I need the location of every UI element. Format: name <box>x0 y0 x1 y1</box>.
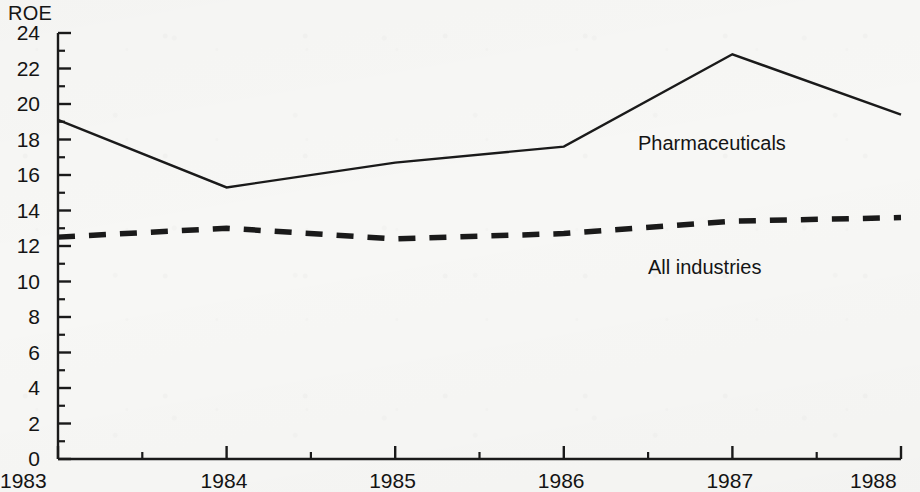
plot-area <box>0 0 920 492</box>
series-line-1 <box>58 218 901 239</box>
axis-lines <box>58 33 901 459</box>
x-tick-label: 1988 <box>850 470 897 491</box>
y-axis-major-ticks <box>58 33 71 459</box>
series-label-all-industries: All industries <box>648 257 761 277</box>
series-line-0 <box>58 54 901 187</box>
x-tick-label: 1983 <box>0 470 47 491</box>
x-tick-label: 1987 <box>706 470 753 491</box>
series-label-pharmaceuticals: Pharmaceuticals <box>638 133 786 153</box>
x-tick-label: 1985 <box>369 470 416 491</box>
x-tick-label: 1984 <box>201 470 248 491</box>
x-tick-label: 1986 <box>538 470 585 491</box>
roe-line-chart: ROE 024681012141618202224 19831984198519… <box>0 0 920 492</box>
